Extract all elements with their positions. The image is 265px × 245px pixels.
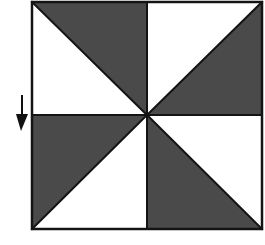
- internal-division-lines: [32, 2, 262, 229]
- figure-root: [0, 0, 265, 245]
- pinwheel-diagram-svg: [0, 0, 265, 245]
